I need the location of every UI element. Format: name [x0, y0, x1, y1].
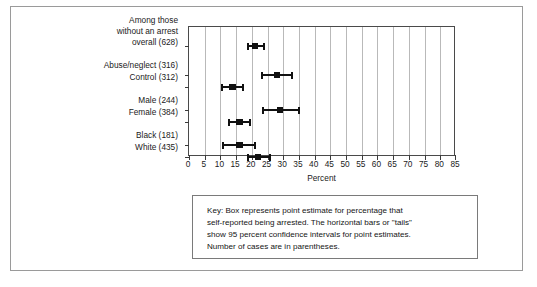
- gridline-50: [346, 27, 347, 155]
- gridline-70: [409, 27, 410, 155]
- x-axis-tick-labels: 0510152025303540455055606570758085: [188, 159, 455, 171]
- plot-area: [188, 26, 455, 156]
- x-axis-label-70: 70: [403, 159, 412, 169]
- confidence-interval-cap-upper: [298, 107, 300, 114]
- gridline-5: [205, 27, 206, 155]
- gridline-10: [220, 27, 221, 155]
- gridline-60: [377, 27, 378, 155]
- gridline-15: [236, 27, 237, 155]
- x-axis-label-60: 60: [372, 159, 381, 169]
- x-axis-label-30: 30: [278, 159, 287, 169]
- gridline-40: [315, 27, 316, 155]
- x-axis-label-5: 5: [201, 159, 206, 169]
- y-tick-1: [185, 75, 189, 76]
- point-estimate-marker: [236, 142, 243, 149]
- point-estimate-marker: [236, 119, 243, 126]
- confidence-interval-cap-upper: [242, 84, 244, 91]
- x-axis-label-50: 50: [340, 159, 349, 169]
- category-label-white: White (435): [135, 142, 178, 153]
- x-axis-label-35: 35: [293, 159, 302, 169]
- gridline-80: [440, 27, 441, 155]
- confidence-interval-cap-lower: [247, 43, 249, 50]
- category-label-abuse-neglect: Abuse/neglect (316): [104, 60, 178, 71]
- x-axis-label-65: 65: [388, 159, 397, 169]
- x-axis-title: Percent: [188, 173, 455, 183]
- confidence-interval-cap-upper: [249, 119, 251, 126]
- y-tick-5: [185, 145, 189, 146]
- key-line-3: show 95 percent confidence intervals for…: [207, 229, 469, 241]
- point-estimate-marker: [252, 43, 259, 50]
- gridline-55: [362, 27, 363, 155]
- confidence-interval-cap-upper: [291, 72, 293, 79]
- x-axis-label-10: 10: [215, 159, 224, 169]
- confidence-interval-cap-lower: [228, 119, 230, 126]
- point-estimate-marker: [277, 107, 284, 114]
- category-label-overall-line2: without an arrest: [117, 26, 178, 37]
- confidence-interval-cap-lower: [262, 107, 264, 114]
- category-label-female: Female (384): [129, 107, 178, 118]
- confidence-interval-cap-upper: [263, 43, 265, 50]
- figure-frame: Among those without an arrest overall (6…: [10, 6, 523, 271]
- x-axis-label-20: 20: [246, 159, 255, 169]
- x-axis-label-0: 0: [186, 159, 191, 169]
- category-label-black: Black (181): [136, 130, 178, 141]
- gridline-65: [393, 27, 394, 155]
- x-axis-label-15: 15: [230, 159, 239, 169]
- point-estimate-marker: [274, 72, 281, 79]
- y-tick-2: [185, 87, 189, 88]
- category-label-group: Among those without an arrest overall (6…: [21, 11, 184, 163]
- confidence-interval-cap-upper: [254, 142, 256, 149]
- gridline-30: [283, 27, 284, 155]
- category-label-control: Control (312): [130, 72, 178, 83]
- x-axis-label-55: 55: [356, 159, 365, 169]
- confidence-interval-cap-lower: [221, 84, 223, 91]
- category-label-male: Male (244): [138, 95, 178, 106]
- point-estimate-marker: [229, 84, 236, 91]
- confidence-interval-cap-lower: [261, 72, 263, 79]
- confidence-interval-cap-lower: [222, 142, 224, 149]
- key-text: Key: Box represents point estimate for p…: [207, 205, 469, 254]
- key-line-1: Key: Box represents point estimate for p…: [207, 205, 469, 217]
- y-tick-0: [185, 46, 189, 47]
- y-tick-3: [185, 110, 189, 111]
- gridline-45: [330, 27, 331, 155]
- x-axis-label-45: 45: [325, 159, 334, 169]
- key-line-4: Number of cases are in parentheses.: [207, 241, 469, 253]
- category-label-overall-line1: Among those: [129, 15, 178, 26]
- x-axis-label-85: 85: [450, 159, 459, 169]
- x-axis-label-75: 75: [419, 159, 428, 169]
- gridline-25: [268, 27, 269, 155]
- gridline-35: [299, 27, 300, 155]
- x-axis-label-25: 25: [262, 159, 271, 169]
- gridline-75: [425, 27, 426, 155]
- y-tick-4: [185, 122, 189, 123]
- category-label-overall-line3: overall (628): [132, 37, 178, 48]
- key-box: Key: Box represents point estimate for p…: [192, 195, 478, 259]
- key-line-2: self-reported being arrested. The horizo…: [207, 217, 469, 229]
- x-axis-label-40: 40: [309, 159, 318, 169]
- x-axis-label-80: 80: [435, 159, 444, 169]
